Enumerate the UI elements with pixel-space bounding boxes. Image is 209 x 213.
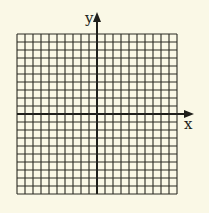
coordinate-plane: y x	[0, 0, 209, 213]
y-axis-label: y	[85, 11, 93, 26]
y-axis-arrow-icon	[93, 12, 101, 22]
x-axis-label: x	[184, 117, 192, 132]
grid	[0, 0, 209, 213]
